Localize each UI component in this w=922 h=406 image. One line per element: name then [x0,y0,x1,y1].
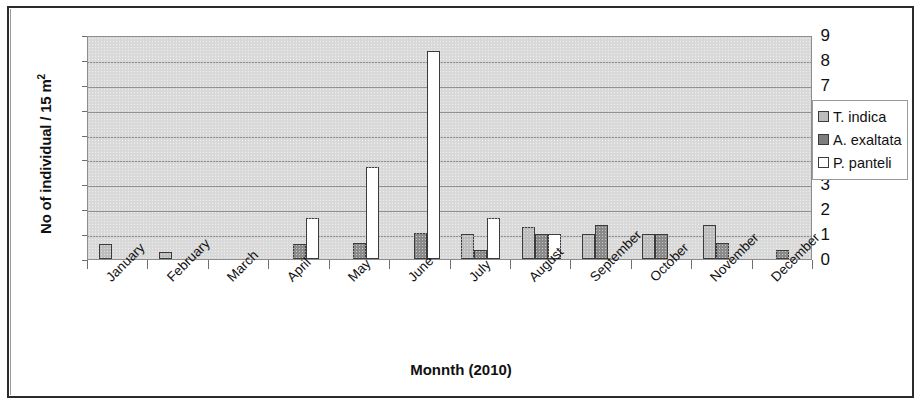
legend-label: T. indica [833,109,886,125]
month-bar-group [451,37,511,259]
x-axis-tick-mark [87,260,88,269]
x-axis-tick-mark [208,260,209,269]
x-axis-tick-mark [631,260,632,269]
bar-january-series-0 [99,244,112,259]
x-axis-tick-mark [329,260,330,269]
bar-october-series-0 [642,234,655,259]
month-bar-group [330,37,390,259]
legend-swatch-a-exaltata [818,134,829,145]
bar-august-series-0 [522,227,535,259]
x-axis-tick-mark [691,260,692,269]
month-bar-group [511,37,571,259]
legend-swatch-t-indica [818,111,829,122]
month-bar-group [209,37,269,259]
x-axis-tick-mark [510,260,511,269]
legend-label: A. exaltata [833,132,902,148]
bar-november-series-0 [703,225,716,259]
month-bar-group [571,37,631,259]
y-axis-title: No of individual / 15 m2 [36,29,54,279]
bar-may-series-2 [366,167,379,259]
chart-legend: T. indicaA. exaltataP. panteli [812,100,908,180]
bar-july-series-0 [461,234,474,259]
x-axis-tick-mark [752,260,753,269]
x-axis-tick-mark [570,260,571,269]
x-axis-tick-mark [450,260,451,269]
x-axis-tick-mark [268,260,269,269]
x-axis-tick-mark [147,260,148,269]
bar-april-series-2 [306,218,319,259]
plot-area [87,36,812,260]
legend-item-0: T. indica [818,105,902,128]
month-bar-group [269,37,329,259]
x-axis-title: Monnth (2010) [0,361,922,378]
legend-label: P. panteli [833,155,892,171]
month-bar-group [692,37,752,259]
legend-item-1: A. exaltata [818,128,902,151]
bar-february-series-0 [159,252,172,259]
chart-page: No of individual / 15 m2 9876543210 Janu… [0,0,922,406]
month-bar-group [148,37,208,259]
bar-july-series-2 [487,218,500,259]
y-axis-title-superscript: 2 [36,74,47,79]
legend-item-2: P. panteli [818,151,902,174]
month-bar-group [632,37,692,259]
y-axis-title-text: No of individual / 15 m [37,79,54,234]
bar-september-series-0 [582,234,595,259]
month-bar-group [390,37,450,259]
month-bar-group [753,37,813,259]
legend-swatch-p-panteli [818,157,829,168]
month-bar-group [88,37,148,259]
x-axis-tick-mark [389,260,390,269]
x-axis-tick-mark [812,260,813,269]
bar-june-series-2 [427,51,440,259]
